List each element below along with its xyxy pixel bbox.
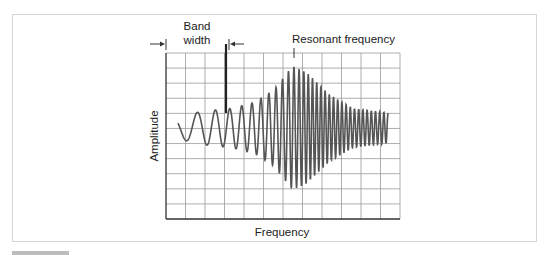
band-width-label-line1: Band: [184, 20, 211, 32]
y-axis-label: Amplitude: [148, 110, 160, 161]
resonant-frequency-annotation: Resonant frequency: [292, 33, 395, 58]
band-width-annotation: Band width: [150, 20, 244, 113]
resonant-frequency-label: Resonant frequency: [292, 33, 395, 45]
x-axis-label: Frequency: [255, 226, 310, 238]
resonance-diagram: Band width Resonant frequency Amplitude …: [0, 0, 550, 255]
arrow-left-icon: [230, 42, 235, 47]
arrow-right-icon: [160, 42, 165, 47]
band-width-label-line2: width: [183, 34, 211, 46]
